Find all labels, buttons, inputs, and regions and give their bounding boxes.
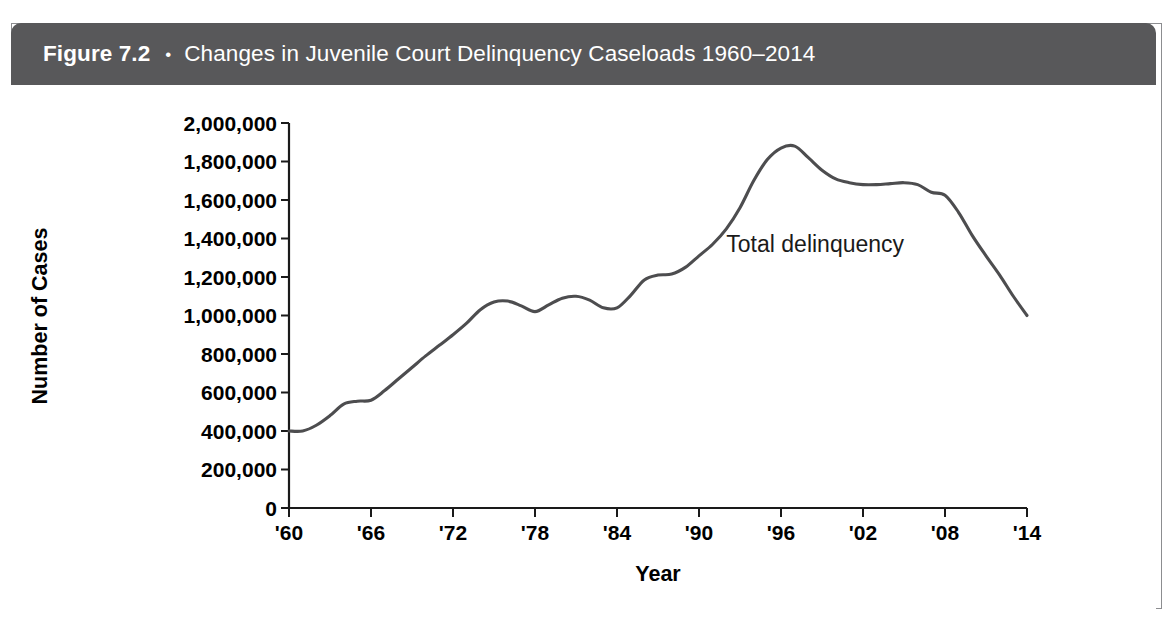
bullet-separator-icon: •	[165, 46, 171, 63]
figure-root: Figure 7.2 • Changes in Juvenile Court D…	[0, 0, 1173, 634]
figure-caption-inner: Figure 7.2 • Changes in Juvenile Court D…	[43, 23, 815, 85]
figure-number-label: Figure 7.2	[43, 41, 150, 67]
y-tick-label: 600,000	[201, 381, 277, 404]
figure-title: Changes in Juvenile Court Delinquency Ca…	[184, 41, 815, 67]
y-tick-label: 1,800,000	[184, 150, 277, 173]
x-axis-ticks	[289, 508, 1027, 517]
plot-area: 0200,000400,000600,000800,0001,000,0001,…	[11, 85, 1156, 609]
x-tick-label: '60	[275, 521, 303, 544]
y-tick-label: 200,000	[201, 458, 277, 481]
figure-caption-bar: Figure 7.2 • Changes in Juvenile Court D…	[11, 23, 1156, 85]
y-tick-label: 1,200,000	[184, 266, 277, 289]
y-tick-label: 0	[265, 497, 277, 520]
y-tick-label: 1,400,000	[184, 227, 277, 250]
y-tick-label: 1,600,000	[184, 189, 277, 212]
y-tick-label: 2,000,000	[184, 112, 277, 135]
x-tick-label: '96	[767, 521, 795, 544]
y-tick-label: 1,000,000	[184, 304, 277, 327]
x-tick-label: '14	[1013, 521, 1042, 544]
y-axis-ticks	[281, 123, 289, 508]
line-chart: 0200,000400,000600,000800,0001,000,0001,…	[11, 85, 1156, 609]
y-axis-title: Number of Cases	[28, 228, 52, 405]
y-tick-label: 800,000	[201, 343, 277, 366]
x-axis-tick-labels: '60'66'72'78'84'90'96'02'08'14	[275, 521, 1042, 544]
x-tick-label: '78	[521, 521, 550, 544]
x-tick-label: '90	[685, 521, 713, 544]
y-tick-label: 400,000	[201, 420, 277, 443]
x-tick-label: '66	[357, 521, 385, 544]
x-tick-label: '72	[439, 521, 467, 544]
x-tick-label: '08	[931, 521, 960, 544]
x-tick-label: '84	[603, 521, 632, 544]
series-line-total-delinquency	[289, 145, 1027, 431]
x-axis-title: Year	[635, 562, 681, 586]
x-tick-label: '02	[849, 521, 877, 544]
series-annotation-total-delinquency: Total delinquency	[726, 231, 904, 257]
y-axis-tick-labels: 0200,000400,000600,000800,0001,000,0001,…	[184, 112, 277, 520]
